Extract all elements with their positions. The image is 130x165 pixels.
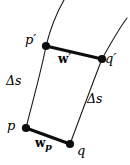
label-q: q (77, 144, 85, 157)
label-vector-w-p-text: w (35, 136, 45, 150)
label-q-prime-mark: ′ (113, 51, 116, 66)
label-delta-s-right: Δs (87, 93, 102, 106)
label-p-prime: p′ (25, 33, 36, 46)
right-curve (70, 18, 127, 144)
label-delta-s-left: Δs (6, 75, 21, 88)
point-p-dot (22, 124, 30, 132)
label-vector-w-prime-text: w (58, 52, 68, 66)
label-vector-w-prime-mark: ′ (68, 52, 71, 66)
point-p-prime-dot (42, 42, 50, 50)
label-p: p (7, 119, 15, 132)
label-q-prime: q′ (105, 52, 116, 65)
label-vector-w-p: wp (35, 137, 52, 152)
point-q-dot (66, 140, 74, 148)
figure-container: p′ q′ p q w′ wp Δs Δs (0, 0, 130, 165)
label-vector-w-prime: w′ (58, 53, 71, 65)
label-vector-w-p-subscript: p (45, 141, 52, 152)
label-p-prime-mark: ′ (33, 32, 36, 47)
vector-w-prime-segment (46, 46, 102, 59)
